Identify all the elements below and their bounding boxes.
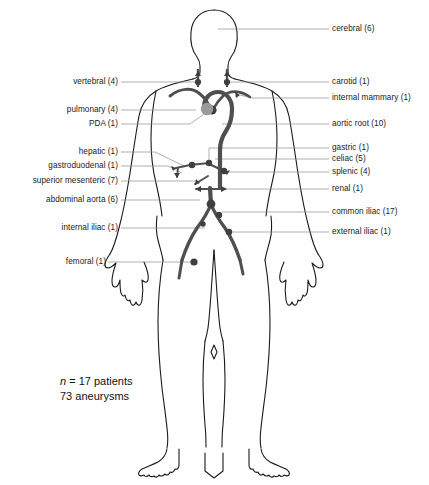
label-external-iliac: external iliac (1) [332,228,391,236]
vessel-right-femoral [240,260,243,274]
label-carotid: carotid (1) [332,78,369,86]
label-gastroduodenal: gastroduodenal (1) [48,162,118,170]
label-internal-iliac: internal iliac (1) [62,224,118,232]
figure-caption: n = 17 patients 73 aneurysms [60,374,132,404]
label-cerebral: cerebral (6) [332,25,374,33]
label-pulmonary: pulmonary (4) [67,106,118,114]
marker-hepatic [189,162,195,168]
label-femoral: femoral (1) [66,258,106,266]
marker-vertebral [195,79,201,85]
arrow-renal-right [221,186,227,192]
caption-n-text: = 17 patients [66,375,132,387]
caption-line-patients: n = 17 patients [60,374,132,389]
label-internal-mammary: internal mammary (1) [332,94,411,102]
arrow-carotid [224,71,230,76]
label-renal: renal (1) [332,185,363,193]
marker-femoral [190,258,197,265]
vessel-left-femoral [179,260,182,278]
label-gastric: gastric (1) [332,144,369,152]
marker-pulmonary [201,103,213,115]
arrow-hepatic [171,166,176,171]
label-celiac: celiac (5) [332,155,366,163]
arrow-gastroduodenal [174,173,180,178]
leader-hepatic-angle [155,152,184,166]
marker-external-iliac [226,229,232,235]
marker-internal-iliac [200,221,205,226]
marker-common-iliac [216,212,222,218]
label-splenic: splenic (4) [332,168,370,176]
vessel-left-iliac [182,204,211,260]
marker-abdominal-aorta [207,200,216,209]
label-vertebral: vertebral (4) [73,78,118,86]
label-hepatic: hepatic (1) [79,148,118,156]
label-common-iliac: common iliac (17) [332,208,397,216]
vascular-tree [170,70,250,278]
aneurysm-distribution-figure: vertebral (4)pulmonary (4)PDA (1)hepatic… [0,0,429,485]
marker-celiac [206,160,212,166]
label-superior-mesenteric: superior mesenteric (7) [33,177,118,185]
body-outline [105,10,323,478]
label-pda: PDA (1) [89,120,118,128]
body-diagram-svg [0,0,429,485]
arrow-renal-left [195,186,201,192]
marker-carotid [224,79,230,85]
label-abdominal-aorta: abdominal aorta (6) [46,196,118,204]
caption-line-aneurysms: 73 aneurysms [60,389,132,404]
label-aortic-root: aortic root (10) [332,120,386,128]
